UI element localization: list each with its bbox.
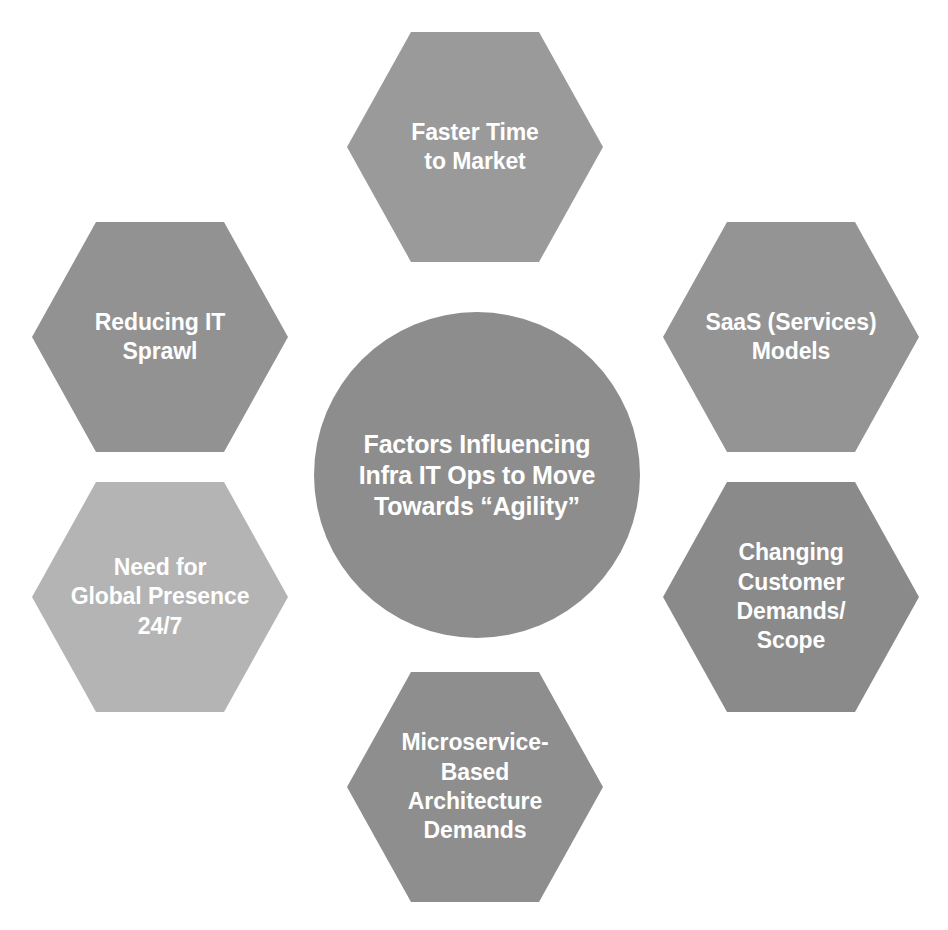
hexagon-label-changing-customer-demands-scope: Changing Customer Demands/ Scope: [718, 538, 863, 656]
hexagon-changing-customer-demands-scope[interactable]: Changing Customer Demands/ Scope: [663, 482, 919, 712]
hexagon-microservice-based-architecture-demands[interactable]: Microservice- Based Architecture Demands: [347, 672, 603, 902]
hexagon-faster-time-to-market[interactable]: Faster Time to Market: [347, 32, 603, 262]
diagram-canvas: Faster Time to Market SaaS (Services) Mo…: [0, 0, 948, 930]
hexagon-need-for-global-presence-24-7[interactable]: Need for Global Presence 24/7: [32, 482, 288, 712]
hexagon-label-microservice-based-architecture-demands: Microservice- Based Architecture Demands: [384, 728, 567, 846]
hexagon-label-faster-time-to-market: Faster Time to Market: [393, 118, 557, 177]
center-circle[interactable]: Factors Influencing Infra IT Ops to Move…: [314, 312, 640, 638]
hexagon-label-saas-services-models: SaaS (Services) Models: [687, 308, 894, 367]
center-circle-label: Factors Influencing Infra IT Ops to Move…: [333, 429, 621, 522]
hexagon-reducing-it-sprawl[interactable]: Reducing IT Sprawl: [32, 222, 288, 452]
hexagon-label-reducing-it-sprawl: Reducing IT Sprawl: [77, 308, 244, 367]
hexagon-saas-services-models[interactable]: SaaS (Services) Models: [663, 222, 919, 452]
hexagon-label-need-for-global-presence-24-7: Need for Global Presence 24/7: [53, 553, 268, 641]
